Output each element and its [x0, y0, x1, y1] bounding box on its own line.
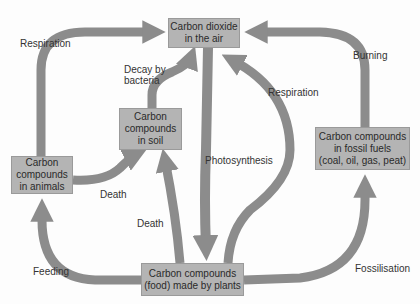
node-fossil: Carbon compoundsin fossil fuels(coal, oi…	[315, 127, 410, 170]
node-animals-line2: compounds	[16, 169, 68, 181]
label-photosynthesis: Photosynthesis	[205, 155, 273, 167]
node-animals-line3: in animals	[16, 181, 68, 193]
node-animals: Carboncompoundsin animals	[11, 156, 73, 194]
node-soil-line1: Carbon	[125, 111, 177, 123]
node-plants-line1: Carbon compounds	[144, 268, 241, 280]
node-fossil-line1: Carbon compounds	[319, 131, 406, 143]
arrow-photosynthesis	[205, 48, 208, 248]
label-respiration-right: Respiration	[268, 87, 319, 99]
node-air: Carbon dioxidein the air	[168, 18, 240, 48]
node-air-line1: Carbon dioxide	[170, 21, 237, 33]
node-fossil-line2: in fossil fuels	[319, 143, 406, 155]
node-animals-line1: Carbon	[16, 157, 68, 169]
node-soil-line2: compounds	[125, 123, 177, 135]
label-feeding: Feeding	[33, 266, 69, 278]
label-respiration-left: Respiration	[20, 38, 71, 50]
label-death-animals: Death	[100, 189, 127, 201]
carbon-cycle-diagram: Carbon dioxidein the air Carboncompounds…	[0, 0, 420, 304]
node-soil-line3: in soil	[125, 135, 177, 147]
label-death-plants: Death	[137, 218, 164, 230]
arrow-death-animals	[73, 155, 136, 180]
node-plants: Carbon compounds(food) made by plants	[141, 263, 244, 296]
node-air-line2: in the air	[170, 33, 237, 45]
label-burning: Burning	[353, 50, 387, 62]
node-plants-line2: (food) made by plants	[144, 280, 241, 292]
label-fossilisation: Fossilisation	[355, 263, 410, 275]
node-soil: Carboncompoundsin soil	[119, 108, 182, 150]
arrow-death-plants	[165, 160, 180, 263]
label-decay-2: bacteria	[124, 75, 160, 87]
node-fossil-line3: (coal, oil, gas, peat)	[319, 155, 406, 167]
arrow-burning	[256, 32, 365, 127]
